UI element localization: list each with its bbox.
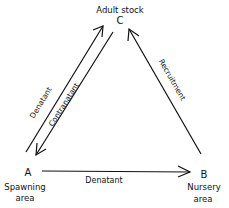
- edge-a-to-c: Denatant: [26, 26, 103, 152]
- arrow-line-a-to-b: [42, 171, 190, 172]
- edge-a-to-b-label: Denatant: [85, 176, 122, 185]
- node-c-letter: C: [117, 15, 124, 26]
- node-b-label-line2: area: [194, 194, 213, 204]
- node-a: A Spawning area: [4, 167, 45, 203]
- node-c-label: Adult stock: [96, 5, 143, 15]
- migration-triangle-diagram: Adult stock C A Spawning area B Nursery …: [0, 0, 229, 208]
- edge-c-to-a-label: Contranatant: [47, 81, 81, 128]
- node-b: B Nursery area: [187, 169, 220, 204]
- node-b-letter: B: [201, 169, 208, 180]
- edge-a-to-b: Denatant: [42, 166, 190, 185]
- arrow-line-a-to-c: [26, 26, 103, 152]
- edge-b-to-c: Recruitment: [128, 29, 201, 154]
- node-c: Adult stock C: [96, 5, 143, 26]
- edge-a-to-c-label: Denatant: [28, 85, 54, 120]
- node-a-label-line1: Spawning: [4, 182, 45, 192]
- node-b-label-line1: Nursery: [187, 182, 220, 192]
- edge-b-to-c-label: Recruitment: [157, 58, 188, 102]
- node-a-letter: A: [25, 167, 32, 178]
- arrow-line-b-to-c: [129, 29, 201, 154]
- node-a-label-line2: area: [16, 193, 35, 203]
